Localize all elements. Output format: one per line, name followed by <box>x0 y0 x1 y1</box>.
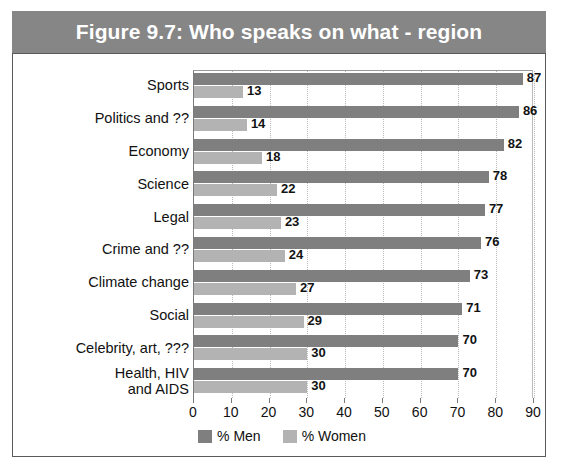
bar-value-men: 70 <box>462 334 476 346</box>
bar-value-men: 71 <box>466 302 480 314</box>
category-label: Politics and ?? <box>3 110 189 126</box>
bar-men <box>194 139 504 151</box>
x-tick-label: 90 <box>525 404 541 420</box>
bar-value-men: 82 <box>508 138 522 150</box>
x-axis-ticks <box>193 398 534 404</box>
category-label: Health, HIV and AIDS <box>3 365 189 397</box>
chart-legend: % Men% Women <box>0 428 564 444</box>
x-tick-label: 20 <box>261 404 277 420</box>
bar-value-women: 29 <box>308 315 322 327</box>
bar-women <box>194 119 247 131</box>
bar-value-women: 22 <box>281 183 295 195</box>
bar-women <box>194 217 281 229</box>
bar-value-women: 23 <box>285 216 299 228</box>
figure-title: Figure 9.7: Who speaks on what - region <box>76 20 482 44</box>
bar-women <box>194 86 243 98</box>
x-tick-label: 50 <box>374 404 390 420</box>
bar-men <box>194 335 458 347</box>
x-tick <box>457 398 458 403</box>
bar-men <box>194 204 485 216</box>
bar-men <box>194 303 462 315</box>
x-tick <box>533 398 534 403</box>
x-tick <box>306 398 307 403</box>
x-tick <box>193 398 194 403</box>
bar-value-women: 18 <box>266 151 280 163</box>
bar-women <box>194 184 277 196</box>
bar-women <box>194 152 262 164</box>
bar-women <box>194 283 296 295</box>
bar-group: 8218 <box>194 137 532 169</box>
bar-value-women: 27 <box>300 282 314 294</box>
bar-value-men: 77 <box>489 203 503 215</box>
bar-value-women: 30 <box>311 380 325 392</box>
bar-men <box>194 237 481 249</box>
x-tick-label: 40 <box>336 404 352 420</box>
legend-swatch <box>283 430 297 443</box>
figure-title-bar: Figure 9.7: Who speaks on what - region <box>12 11 546 53</box>
bar-women <box>194 316 304 328</box>
category-axis-labels: SportsPolitics and ??EconomyScienceLegal… <box>0 70 189 398</box>
bar-value-men: 87 <box>527 72 541 84</box>
bar-women <box>194 348 307 360</box>
x-tick-label: 60 <box>412 404 428 420</box>
legend-item: % Women <box>283 428 366 444</box>
x-tick <box>231 398 232 403</box>
bar-group: 7624 <box>194 235 532 267</box>
bar-group: 7327 <box>194 268 532 300</box>
bar-men <box>194 106 519 118</box>
bar-women <box>194 250 285 262</box>
category-label: Celebrity, art, ??? <box>3 340 189 356</box>
x-tick-label: 70 <box>450 404 466 420</box>
bar-value-men: 86 <box>523 105 537 117</box>
bar-group: 7030 <box>194 333 532 365</box>
category-label: Climate change <box>3 274 189 290</box>
bar-value-men: 70 <box>462 367 476 379</box>
bar-men <box>194 368 458 380</box>
bar-group: 7030 <box>194 366 532 398</box>
x-tick-label: 0 <box>189 404 197 420</box>
category-label: Crime and ?? <box>3 241 189 257</box>
bar-men <box>194 171 489 183</box>
category-label: Social <box>3 307 189 323</box>
figure-container: Figure 9.7: Who speaks on what - region … <box>0 0 564 470</box>
x-tick-label: 80 <box>487 404 503 420</box>
bar-value-men: 76 <box>485 236 499 248</box>
gridline <box>534 71 536 398</box>
bar-value-women: 14 <box>251 118 265 130</box>
category-label: Legal <box>3 209 189 225</box>
x-tick <box>420 398 421 403</box>
bar-group: 8614 <box>194 104 532 136</box>
category-label: Science <box>3 176 189 192</box>
bar-men <box>194 270 470 282</box>
bar-group: 8713 <box>194 71 532 103</box>
plot-area: 8713861482187822772376247327712970307030 <box>193 70 533 398</box>
legend-item: % Men <box>198 428 261 444</box>
bar-value-women: 13 <box>247 85 261 97</box>
bar-value-women: 24 <box>289 249 303 261</box>
x-tick <box>269 398 270 403</box>
x-tick-label: 30 <box>299 404 315 420</box>
bar-value-men: 78 <box>493 170 507 182</box>
category-label: Economy <box>3 143 189 159</box>
x-tick <box>344 398 345 403</box>
legend-swatch <box>198 430 212 443</box>
bar-value-women: 30 <box>311 347 325 359</box>
bar-value-men: 73 <box>474 269 488 281</box>
category-label: Sports <box>3 77 189 93</box>
x-tick <box>382 398 383 403</box>
bar-group: 7822 <box>194 169 532 201</box>
bar-group: 7129 <box>194 301 532 333</box>
bar-men <box>194 73 523 85</box>
legend-label: % Women <box>302 428 366 444</box>
bar-women <box>194 381 307 393</box>
bar-group: 7723 <box>194 202 532 234</box>
legend-label: % Men <box>217 428 261 444</box>
x-tick-label: 10 <box>223 404 239 420</box>
x-tick <box>495 398 496 403</box>
